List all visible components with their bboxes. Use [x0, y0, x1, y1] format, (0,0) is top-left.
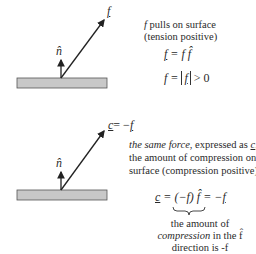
bottom-description: the same force, expressed as c,	[129, 139, 256, 151]
top-description: f pulls on surface	[144, 19, 216, 31]
bottom-normal-label: n̂	[56, 156, 62, 171]
top-description-line2: (tension positive)	[144, 31, 217, 43]
brace-note-line2: compression in the f̂	[145, 230, 255, 242]
top-equation-2: f = f > 0	[164, 71, 210, 86]
top-normal-label: n̂	[56, 44, 62, 59]
bottom-force-arrow	[61, 131, 104, 190]
top-force-arrow	[61, 20, 104, 78]
brace-note-line1: the amount of	[145, 218, 255, 230]
bottom-force-label: c= −f	[108, 118, 133, 133]
bottom-surface	[17, 190, 107, 200]
bottom-equation: c = (−f) f̂ = −f	[155, 190, 226, 205]
brace-note-line3: direction is -f	[145, 242, 255, 254]
bottom-description-line3: surface (compression positive)	[129, 165, 256, 177]
bottom-description-line2: the amount of compression on	[129, 152, 256, 164]
underbrace	[173, 207, 205, 215]
top-surface	[17, 78, 107, 88]
top-equation-1: f = f f̂	[164, 47, 191, 62]
top-force-label: f	[107, 4, 110, 19]
